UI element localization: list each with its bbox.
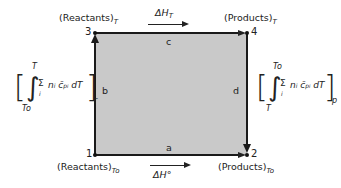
left-bracket-open: [: [14, 72, 26, 102]
right-sum: Σ: [280, 78, 286, 88]
node-4-label: 4: [251, 26, 257, 37]
node-2-state: (Products)To: [218, 161, 274, 172]
edge-c-line: [95, 32, 243, 34]
right-body: ni c̄pi dT: [290, 80, 325, 90]
delta-h-t-arrowhead: [182, 21, 189, 27]
right-outer-subscript: p: [332, 96, 337, 105]
node-3-state: (Reactants)T: [59, 12, 118, 23]
node-1-dot: [93, 153, 97, 157]
left-sum: Σ: [38, 78, 44, 88]
left-lower-limit: To: [22, 104, 31, 113]
node-1-state: (Reactants)To: [57, 161, 119, 172]
left-integral-expression: [ T ∫ To Σ i ni c̄pi dT ] r: [14, 62, 94, 122]
edge-d-arrowhead: [243, 144, 251, 153]
node-2-label: 2: [251, 148, 257, 159]
right-bracket-open: [: [256, 72, 268, 102]
right-integral-expression: [ To ∫ T Σ i ni c̄pi dT ] p: [256, 62, 341, 122]
right-upper-limit: To: [273, 62, 282, 71]
node-3-label: 3: [85, 26, 91, 37]
delta-h-standard-arrow: [150, 165, 186, 166]
cycle-region: [95, 33, 247, 155]
delta-h-t-label: ΔHT: [155, 7, 173, 18]
edge-b-label: b: [102, 85, 108, 96]
left-upper-limit: T: [32, 62, 37, 71]
node-4-state: (Products)T: [224, 12, 277, 23]
node-2-dot: [245, 153, 249, 157]
left-body: ni c̄pi dT: [48, 80, 83, 90]
delta-h-standard-label: ΔH°: [153, 169, 171, 180]
edge-a-line: [95, 154, 243, 156]
edge-b-arrowhead: [91, 34, 99, 43]
node-4-dot: [245, 31, 249, 35]
delta-h-t-arrow: [148, 24, 184, 25]
right-sum-index: i: [281, 90, 283, 97]
edge-d-line: [246, 33, 248, 145]
edge-a-label: a: [166, 142, 172, 153]
edge-c-label: c: [166, 36, 171, 47]
node-3-dot: [93, 31, 97, 35]
left-sum-index: i: [39, 90, 41, 97]
right-lower-limit: T: [266, 104, 271, 113]
left-outer-subscript: r: [94, 96, 97, 105]
node-1-label: 1: [86, 148, 92, 159]
edge-d-label: d: [233, 85, 239, 96]
delta-h-standard-arrowhead: [184, 162, 191, 168]
